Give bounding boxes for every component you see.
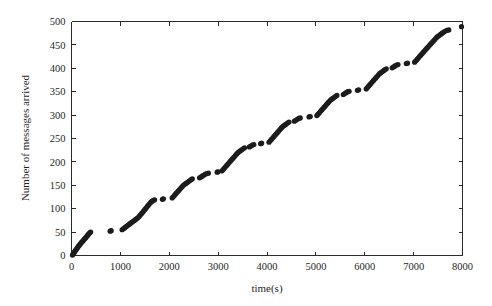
y-tick-label: 450 — [50, 40, 66, 51]
y-tick-label: 150 — [50, 180, 66, 191]
data-point — [384, 66, 389, 71]
x-tick-label: 8000 — [452, 261, 473, 272]
data-point — [152, 197, 157, 202]
data-point — [259, 141, 264, 146]
x-tick-label: 1000 — [110, 261, 131, 272]
y-tick-label: 250 — [50, 133, 66, 144]
data-point — [161, 196, 166, 201]
data-point — [334, 93, 339, 98]
x-tick-label: 0 — [69, 261, 74, 272]
data-point — [347, 89, 352, 94]
x-tick-label: 5000 — [305, 261, 326, 272]
data-point — [308, 114, 313, 119]
data-point — [206, 171, 211, 176]
y-axis-tick-labels: 050100150200250300350400450500 — [50, 16, 66, 261]
data-point — [109, 228, 114, 233]
series-messages-arrived — [70, 24, 464, 258]
data-point — [405, 61, 410, 66]
y-tick-label: 200 — [50, 157, 66, 168]
y-tick-label: 50 — [55, 227, 66, 238]
data-point — [446, 27, 451, 32]
x-tick-label: 4000 — [257, 261, 278, 272]
data-point — [459, 24, 464, 29]
data-point — [395, 62, 400, 67]
data-point — [88, 230, 93, 235]
data-point — [298, 115, 303, 120]
data-point — [251, 142, 256, 147]
y-tick-label: 300 — [50, 110, 66, 121]
y-tick-label: 100 — [50, 203, 66, 214]
data-point — [190, 176, 195, 181]
x-tick-label: 6000 — [354, 261, 375, 272]
x-tick-label: 2000 — [159, 261, 180, 272]
x-axis-tick-labels: 010002000300040005000600070008000 — [69, 261, 473, 272]
x-axis-title: time(s) — [251, 282, 282, 295]
chart-figure: 010002000300040005000600070008000 050100… — [0, 0, 492, 306]
x-tick-label: 3000 — [208, 261, 229, 272]
y-tick-label: 0 — [60, 250, 65, 261]
scatter-plot: 010002000300040005000600070008000 050100… — [0, 0, 492, 306]
x-tick-label: 7000 — [403, 261, 424, 272]
data-points-layer — [70, 24, 464, 258]
y-axis-title: Number of messages arrived — [19, 74, 31, 201]
data-point — [356, 87, 361, 92]
data-point — [242, 145, 247, 150]
y-tick-label: 350 — [50, 86, 66, 97]
data-point — [286, 120, 291, 125]
y-tick-label: 500 — [50, 16, 66, 27]
y-tick-label: 400 — [50, 63, 66, 74]
